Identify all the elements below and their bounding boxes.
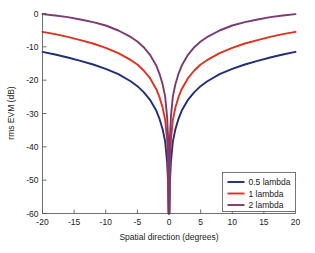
x-tick-label: 5 xyxy=(198,217,203,227)
y-tick-label: -50 xyxy=(26,175,39,185)
x-tick-label: -15 xyxy=(68,217,81,227)
x-tick-label: 0 xyxy=(167,217,172,227)
legend-label-1[interactable]: 1 lambda xyxy=(249,189,284,199)
y-tick-label: -60 xyxy=(26,209,39,219)
legend-label-2[interactable]: 2 lambda xyxy=(249,200,284,210)
y-tick-label: 0 xyxy=(34,9,39,19)
y-axis-title: rms EVM (dB) xyxy=(6,86,16,140)
x-tick-label: -5 xyxy=(134,217,142,227)
y-tick-label: -40 xyxy=(26,142,39,152)
y-tick-label: -30 xyxy=(26,109,39,119)
x-tick-label: 10 xyxy=(228,217,238,227)
legend[interactable]: 0.5 lambda1 lambda2 lambda xyxy=(223,173,296,212)
x-tick-label: -10 xyxy=(100,217,113,227)
legend-label-0[interactable]: 0.5 lambda xyxy=(249,177,291,187)
chart-figure: -20-15-10-505101520 0-10-20-30-40-50-60 … xyxy=(0,0,315,253)
x-tick-label: 15 xyxy=(259,217,269,227)
chart-canvas: -20-15-10-505101520 0-10-20-30-40-50-60 … xyxy=(0,0,315,253)
x-axis-title: Spatial direction (degrees) xyxy=(119,232,218,242)
y-tick-label: -20 xyxy=(26,75,39,85)
x-tick-label: 20 xyxy=(291,217,301,227)
y-tick-label: -10 xyxy=(26,42,39,52)
